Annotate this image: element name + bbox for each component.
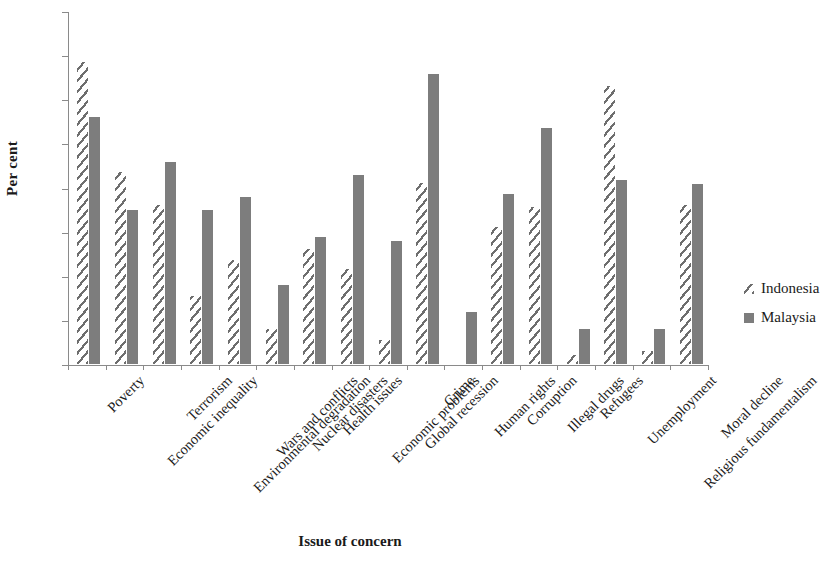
bar-group (529, 11, 552, 364)
bar-malaysia (240, 197, 251, 364)
bar-group (567, 11, 590, 364)
bar-group (642, 11, 665, 364)
bar-indonesia (153, 205, 164, 364)
bar-malaysia (278, 285, 289, 364)
x-axis-category-label: Unemployment (645, 372, 721, 448)
x-axis-tick-labels: PovertyEconomic inequalityTerrorismEnvir… (68, 368, 728, 518)
bar-group (680, 11, 703, 364)
bar-indonesia (77, 62, 88, 364)
y-axis-tick (62, 12, 68, 13)
bar-indonesia (341, 269, 352, 364)
y-axis-tick (62, 321, 68, 322)
bar-malaysia (428, 74, 439, 364)
bar-group (379, 11, 402, 364)
bar-malaysia (353, 175, 364, 364)
bar-malaysia (315, 237, 326, 364)
bar-malaysia (127, 210, 138, 364)
bar-group (416, 11, 439, 364)
bar-group (341, 11, 364, 364)
bar-indonesia (228, 260, 239, 364)
bar-group (190, 11, 213, 364)
bar-indonesia (680, 205, 691, 364)
bar-group (266, 11, 289, 364)
bar-malaysia (579, 329, 590, 364)
y-axis-line (68, 12, 69, 366)
bar-indonesia (604, 86, 615, 364)
bar-malaysia (541, 128, 552, 364)
y-axis-tick (62, 277, 68, 278)
bar-malaysia (616, 180, 627, 364)
bar-indonesia (303, 249, 314, 364)
x-axis-line (68, 365, 709, 366)
bar-indonesia (491, 227, 502, 364)
bar-group (115, 11, 138, 364)
bar-group (604, 11, 627, 364)
bar-indonesia (567, 355, 578, 364)
bar-group (491, 11, 514, 364)
bar-chart: Per cent 01020304050607080 PovertyEconom… (0, 0, 835, 564)
bar-group (303, 11, 326, 364)
bar-indonesia (529, 207, 540, 364)
legend-label-malaysia: Malaysia (761, 309, 816, 326)
bar-malaysia (692, 184, 703, 364)
bar-malaysia (391, 241, 402, 364)
hatch-swatch-icon (744, 284, 754, 294)
bar-malaysia (202, 210, 213, 364)
bar-malaysia (654, 329, 665, 364)
bar-group (228, 11, 251, 364)
bar-indonesia (190, 296, 201, 364)
solid-swatch-icon (744, 313, 754, 323)
y-axis-tick (62, 189, 68, 190)
y-axis-tick (62, 56, 68, 57)
legend-item-malaysia: Malaysia (744, 303, 835, 332)
y-axis-tick (62, 144, 68, 145)
bar-indonesia (416, 183, 427, 364)
bar-indonesia (642, 351, 653, 364)
bar-malaysia (503, 194, 514, 364)
y-axis-tick (62, 233, 68, 234)
bar-indonesia (266, 329, 277, 364)
bar-group (77, 11, 100, 364)
y-axis-title: Per cent (4, 124, 21, 214)
bar-indonesia (115, 172, 126, 364)
x-axis-category-label: Poverty (104, 372, 148, 416)
bar-malaysia (466, 312, 477, 364)
chart-legend: Indonesia Malaysia (744, 274, 835, 332)
bar-group (454, 11, 477, 364)
y-axis-tick (62, 100, 68, 101)
x-axis-title: Issue of concern (0, 533, 700, 550)
bar-group (153, 11, 176, 364)
plot-area: 01020304050607080 (68, 12, 708, 365)
bar-indonesia (379, 340, 390, 364)
bar-malaysia (165, 162, 176, 364)
bar-malaysia (89, 117, 100, 364)
legend-item-indonesia: Indonesia (744, 274, 835, 303)
legend-label-indonesia: Indonesia (761, 280, 819, 297)
